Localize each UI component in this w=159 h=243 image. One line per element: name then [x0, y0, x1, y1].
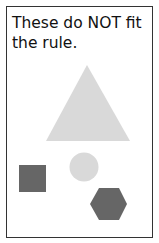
square-shape: [19, 165, 46, 192]
hexagon-shape: [90, 188, 127, 220]
circle-shape: [70, 153, 99, 182]
shapes-canvas: [0, 0, 159, 243]
triangle-shape: [46, 65, 130, 141]
